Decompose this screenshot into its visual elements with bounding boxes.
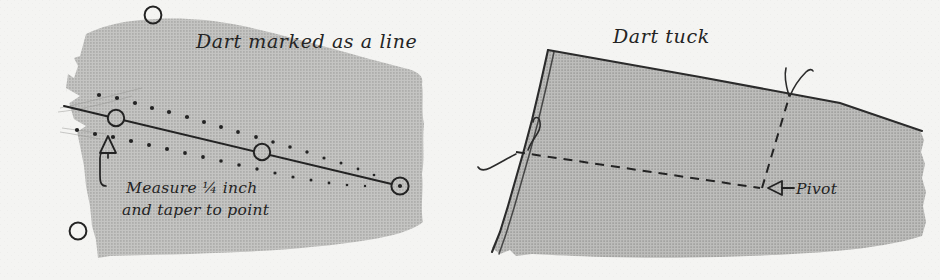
measure-note-line-1: Measure ¼ inch: [125, 179, 258, 197]
left-panel-title: Dart marked as a line: [195, 30, 417, 52]
panel-left: Dart marked as a line Measure ¼ inch and…: [58, 7, 424, 258]
illustration-stage: Dart marked as a line Measure ¼ inch and…: [0, 0, 940, 280]
circle-on-dart-line-near-edge: [108, 110, 124, 126]
sewing-dart-illustration: Dart marked as a line Measure ¼ inch and…: [0, 0, 940, 280]
pivot-label: Pivot: [795, 180, 838, 198]
right-panel-title: Dart tuck: [612, 25, 710, 47]
dart-point-center-dot: [398, 184, 402, 188]
circle-on-dart-line-middle: [254, 144, 270, 160]
measure-note-line-2: and taper to point: [122, 201, 270, 219]
